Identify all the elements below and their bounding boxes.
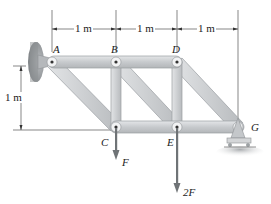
- joint-label-c: C: [101, 137, 108, 148]
- joint-label-a: A: [53, 44, 60, 55]
- truss-members: [47, 56, 244, 133]
- dim-label-ab: 1 m: [74, 23, 93, 34]
- joint-label-b: B: [111, 44, 118, 55]
- load-label-2f: 2F: [183, 187, 195, 198]
- dim-label-dg: 1 m: [197, 23, 216, 34]
- load-label-f: F: [122, 157, 129, 168]
- joint-label-e: E: [167, 137, 174, 148]
- truss-diagram: A B D C E G F 2F 1 m 1 m 1 m 1 m: [0, 0, 271, 204]
- joint-label-g: G: [251, 122, 259, 133]
- dim-label-bd: 1 m: [136, 23, 155, 34]
- joint-label-d: D: [172, 44, 180, 55]
- dim-label-vertical: 1 m: [4, 92, 23, 103]
